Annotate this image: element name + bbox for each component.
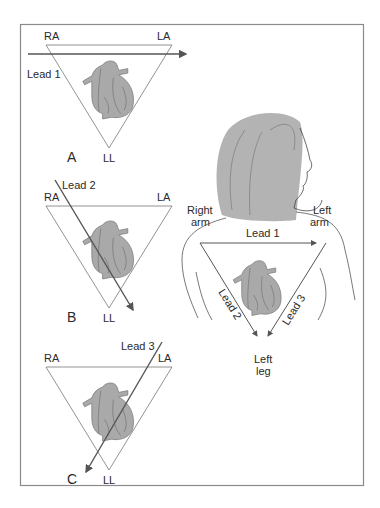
panel-letter-b: B (67, 309, 76, 325)
right-arm-label-1: Right (187, 204, 213, 216)
panel-a: RA LA Lead 1 LL A (27, 30, 186, 165)
label-ra: RA (44, 30, 60, 42)
label-la: LA (157, 30, 171, 42)
hair (217, 113, 303, 221)
lead-3-label: Lead 3 (121, 340, 155, 352)
left-leg-label-1: Left (254, 353, 272, 365)
label-la: LA (158, 352, 172, 364)
panel-letter-c: C (67, 471, 77, 487)
lead-1-label: Lead 1 (27, 68, 61, 80)
einthoven-diagram: RA LA Lead 1 LL A RA LA Lead 2 LL B Lead… (0, 0, 380, 508)
lead-1-body-label: Lead 1 (246, 227, 280, 239)
left-leg-label-2: leg (256, 365, 271, 377)
left-arm-label-1: Left (313, 204, 331, 216)
lead-3-body-label: Lead 3 (280, 292, 308, 327)
label-ll: LL (103, 474, 115, 486)
left-arm-label-2: arm (310, 216, 329, 228)
figure-border (21, 25, 364, 486)
label-ra: RA (44, 352, 60, 364)
label-la: LA (157, 191, 171, 203)
panel-c: Lead 3 RA LA LL C (44, 340, 172, 487)
label-ra: RA (44, 191, 60, 203)
right-arm-label-2: arm (191, 216, 210, 228)
lead-2-body-label: Lead 2 (216, 287, 244, 322)
body-figure: Right arm Left arm Lead 1 Lead 2 Lead 3 … (182, 113, 355, 377)
label-ll: LL (103, 152, 115, 164)
panel-b: RA LA Lead 2 LL B (44, 179, 172, 325)
lead-2-label: Lead 2 (62, 179, 96, 191)
panel-letter-a: A (67, 149, 77, 165)
label-ll: LL (103, 312, 115, 324)
